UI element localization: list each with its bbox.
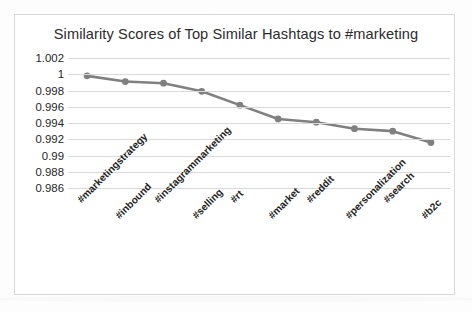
gridline (68, 74, 450, 75)
x-tick-label: #rt (228, 188, 245, 205)
scanned-page: Similarity Scores of Top Similar Hashtag… (0, 0, 472, 312)
x-tick-label: #selling (190, 186, 225, 221)
data-point-marker[interactable] (351, 125, 358, 132)
y-tick-label: 0.998 (8, 85, 64, 97)
x-tick-label: #market (266, 186, 301, 221)
y-tick-label: 0.994 (8, 117, 64, 129)
y-tick-label: 0.988 (8, 166, 64, 178)
x-axis: #marketingstrategy#inbound#instagrammark… (68, 188, 450, 308)
y-axis: 1.00210.9980.9960.9940.9920.990.9880.986 (8, 58, 64, 188)
y-tick-label: 1.002 (8, 52, 64, 64)
gridline (68, 107, 450, 108)
gridline (68, 139, 450, 140)
gridline (68, 91, 450, 92)
y-tick-label: 0.99 (8, 150, 64, 162)
data-point-marker[interactable] (160, 80, 167, 87)
data-point-marker[interactable] (275, 116, 282, 123)
data-point-marker[interactable] (122, 78, 129, 85)
gridline (68, 58, 450, 59)
y-tick-label: 0.986 (8, 182, 64, 194)
y-tick-label: 0.996 (8, 101, 64, 113)
y-tick-label: 0.992 (8, 133, 64, 145)
gridline (68, 123, 450, 124)
y-tick-label: 1 (8, 68, 64, 80)
x-tick-label: #b2c (419, 197, 443, 221)
chart-title: Similarity Scores of Top Similar Hashtag… (0, 26, 472, 42)
data-point-marker[interactable] (389, 128, 396, 135)
